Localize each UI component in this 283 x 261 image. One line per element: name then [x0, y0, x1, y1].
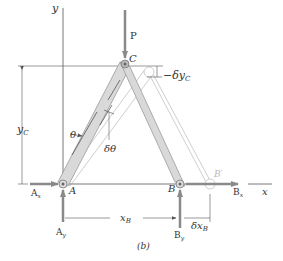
theta-label: θ [70, 129, 76, 140]
x-axis-label: x [262, 186, 268, 197]
xb-label: xB [120, 212, 131, 225]
force-ay-label: Ay [55, 227, 67, 239]
virtual-work-diagram: y x P C A B B′ Ax Ay Bx By yC xB δxB −δy… [0, 0, 283, 261]
point-c-label: C [129, 53, 137, 64]
force-p-label: P [130, 30, 137, 41]
point-b-prime-label: B′ [213, 169, 223, 179]
delta-xb-label: δxB [191, 220, 208, 233]
delta-theta-label: δθ [104, 143, 116, 154]
y-axis-label: y [51, 2, 59, 15]
yc-label: yC [16, 123, 29, 137]
point-b-label: B [167, 183, 175, 194]
force-ax-label: Ax [30, 188, 42, 199]
displaced-pin-c [144, 67, 154, 77]
figure-caption: (b) [137, 241, 150, 251]
force-bx-label: Bx [233, 187, 244, 198]
delta-yc-label: −δyC [163, 69, 191, 83]
force-by-label: By [174, 230, 185, 242]
bar-ac [58, 62, 130, 186]
point-a-label: A [68, 185, 76, 196]
